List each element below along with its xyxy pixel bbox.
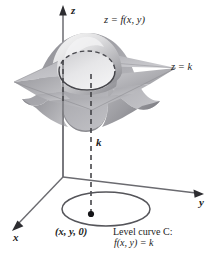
figure-container: z y x z = f(x, y) z = k k (x, y, 0) Leve… — [0, 0, 222, 256]
point-label: (x, y, 0) — [55, 226, 87, 238]
axis-label-x: x — [13, 231, 19, 243]
axis-label-y: y — [199, 196, 204, 208]
axis-x — [12, 177, 63, 231]
height-k-label: k — [96, 136, 102, 148]
level-curve-ellipse — [62, 192, 150, 226]
surface-equation-label: z = f(x, y) — [104, 14, 145, 26]
plane-equation-label: z = k — [171, 61, 192, 73]
level-curve-caption-line2: f(x, y) = k — [113, 237, 172, 248]
level-curve-caption: Level curve C: f(x, y) = k — [113, 226, 172, 248]
diagram-canvas — [0, 0, 222, 256]
level-curve-caption-line1: Level curve C: — [113, 226, 172, 237]
point-marker — [88, 211, 94, 217]
axis-label-z: z — [71, 4, 75, 16]
